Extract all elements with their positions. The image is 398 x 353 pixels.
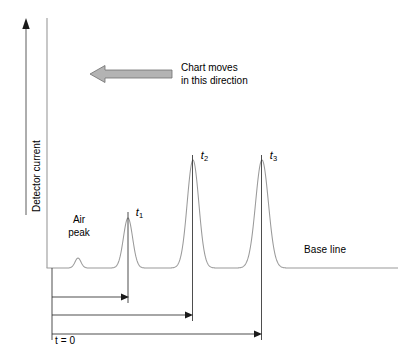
chart-direction-caption-line1: Chart moves bbox=[181, 62, 248, 75]
air-peak-caption-line1: Air bbox=[61, 214, 97, 227]
chart-direction-arrow-icon bbox=[90, 66, 172, 83]
peak-t1-label: t1 bbox=[123, 194, 143, 232]
chart-direction-caption: Chart moves in this direction bbox=[181, 62, 248, 87]
peak-t2-label-subscript: 2 bbox=[204, 154, 208, 163]
y-axis-label: Detector current bbox=[31, 140, 42, 212]
air-peak-caption-line2: peak bbox=[61, 227, 97, 240]
chromatogram-figure: Detector current Chart moves in this dir… bbox=[0, 0, 398, 353]
retention-arrow-t3-head-icon bbox=[254, 331, 262, 338]
base-line-caption: Base line bbox=[304, 244, 346, 256]
chart-direction-caption-line2: in this direction bbox=[181, 75, 248, 88]
peak-t3-label: t3 bbox=[257, 137, 277, 175]
retention-arrow-t2-head-icon bbox=[185, 312, 193, 319]
chromatogram-svg bbox=[0, 0, 398, 353]
time-zero-label: t = 0 bbox=[55, 335, 75, 347]
y-axis-label-arrow-head-icon bbox=[22, 18, 29, 29]
peak-t3-label-subscript: 3 bbox=[273, 154, 277, 163]
peak-t2-label: t2 bbox=[188, 137, 208, 175]
peak-t1-label-subscript: 1 bbox=[139, 211, 143, 220]
air-peak-caption: Air peak bbox=[61, 214, 97, 239]
